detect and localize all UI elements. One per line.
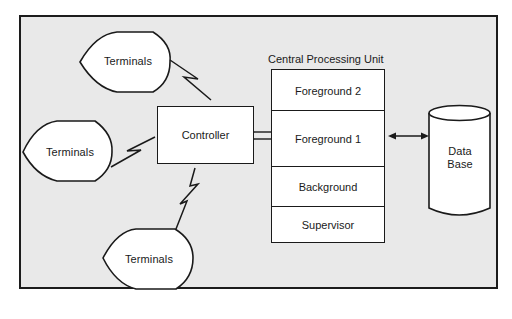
arrowhead-right-icon: [421, 133, 429, 140]
cpu-section-foreground-2: Foreground 2: [272, 70, 384, 111]
terminal-top-label: Terminals: [98, 55, 158, 67]
database-label-line2: Base: [440, 158, 480, 170]
controller-label: Controller: [182, 129, 230, 141]
cpu-section-foreground-1: Foreground 1: [272, 110, 384, 166]
diagram-canvas: Terminals Terminals Terminals Controller…: [0, 0, 512, 319]
diagram-shapes: [0, 0, 512, 319]
cpu-section-supervisor: Supervisor: [272, 206, 384, 242]
cpu-section-label: Background: [299, 181, 358, 193]
cpu-box: Foreground 2 Foreground 1 Background Sup…: [271, 69, 385, 243]
database-cylinder-top: [429, 106, 490, 121]
arrowhead-left-icon: [388, 133, 396, 140]
controller-box: Controller: [157, 106, 254, 164]
terminal-bottom-label: Terminals: [119, 253, 179, 265]
cpu-section-label: Foreground 2: [295, 85, 361, 97]
zigzag-line-top: [170, 60, 211, 100]
zigzag-line-left: [111, 137, 155, 167]
terminal-left-label: Terminals: [40, 146, 100, 158]
zigzag-line-bottom: [176, 168, 198, 229]
cpu-section-label: Supervisor: [302, 219, 355, 231]
database-label-line1: Data: [440, 145, 480, 157]
cpu-title: Central Processing Unit: [268, 53, 384, 65]
cpu-section-label: Foreground 1: [295, 133, 361, 145]
cpu-section-background: Background: [272, 166, 384, 206]
